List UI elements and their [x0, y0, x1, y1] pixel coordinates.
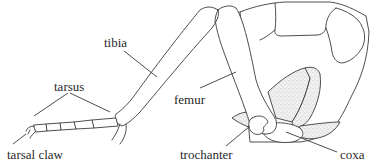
label-coxa: coxa	[340, 148, 365, 161]
leader-tarsal-claw	[13, 134, 26, 144]
leader-tarsus-right	[70, 93, 110, 112]
leader-femur	[200, 72, 236, 88]
tarsomere-2	[46, 123, 61, 131]
tibial-spur-right	[120, 124, 126, 144]
label-tarsal-claw: tarsal claw	[7, 148, 63, 161]
label-tarsus: tarsus	[54, 80, 84, 93]
leader-tibia	[124, 51, 157, 77]
label-femur: femur	[174, 93, 205, 106]
leader-tarsus-left	[34, 93, 68, 116]
tibia-segment	[115, 7, 218, 126]
tarsomere-3	[60, 122, 76, 130]
tarsal-claw-lower	[30, 131, 36, 138]
tarsomere-5	[92, 118, 118, 128]
tarsal-claw-hook	[28, 130, 30, 134]
label-tibia: tibia	[104, 36, 127, 49]
label-trochanter: trochanter	[180, 148, 233, 161]
leader-trochanter	[226, 126, 250, 146]
tarsomere-4	[74, 120, 94, 129]
tarsus-segments	[34, 118, 118, 132]
